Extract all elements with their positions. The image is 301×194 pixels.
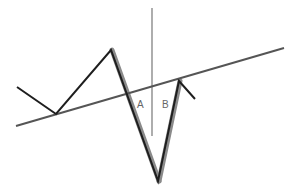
price-path — [17, 50, 195, 181]
diagram-canvas: A B — [0, 0, 301, 194]
label-b: B — [162, 100, 169, 110]
label-a: A — [137, 100, 144, 110]
diagram-svg — [0, 0, 301, 194]
